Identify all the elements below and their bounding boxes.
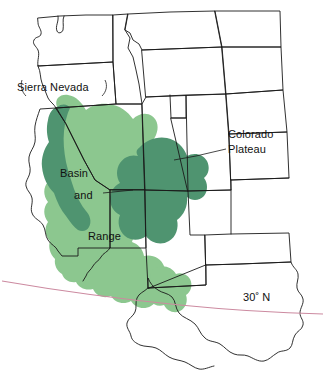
state-south-dakota [222, 47, 283, 94]
label-sierra-nevada: Sierra Nevada [17, 81, 89, 94]
utah-northeast-notch [170, 95, 186, 118]
label-and: and [74, 189, 93, 202]
latitude-value: 30 [243, 291, 255, 303]
state-north-dakota [215, 11, 281, 47]
label-range: Range [88, 230, 121, 243]
province-fills [42, 95, 209, 312]
latitude-hemisphere: N [259, 291, 270, 303]
map-figure: Sierra Nevada Colorado Plateau Basin and… [0, 0, 325, 372]
colorado-plateau-leader [196, 149, 226, 156]
state-wyoming [142, 47, 226, 97]
state-oklahoma [205, 233, 291, 265]
state-washington [33, 15, 113, 66]
sierra-nevada-leader-right [102, 80, 106, 96]
state-montana [125, 11, 222, 50]
puget-sound-notch [56, 16, 64, 33]
state-idaho [113, 14, 142, 104]
label-plateau: Plateau [228, 143, 266, 156]
kansas-south-edge [231, 178, 289, 180]
label-colorado: Colorado [228, 128, 273, 141]
label-basin: Basin [60, 167, 88, 180]
map-canvas [0, 0, 325, 372]
label-latitude-30n: 30˚ N [243, 291, 270, 304]
